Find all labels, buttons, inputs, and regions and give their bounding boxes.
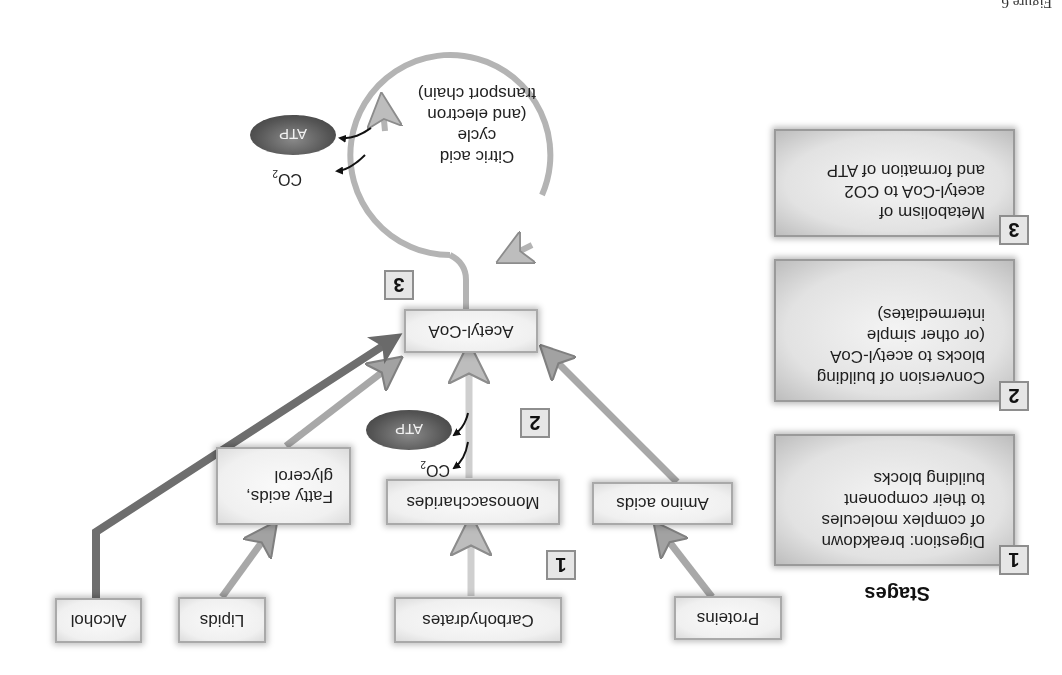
fatty-acids-box: Fatty acids, glycerol <box>216 447 351 525</box>
monosaccharides-label: Monosaccharides <box>406 492 539 512</box>
stage-1-badge: 1 <box>999 545 1029 575</box>
fatty-acids-label-line2: glycerol <box>274 466 333 486</box>
acetyl-coa-label: Acetyl-CoA <box>428 321 513 341</box>
stage-1-box: Digestion: breakdown of complex molecule… <box>774 434 1015 566</box>
stage-3-box: Metabolism of acetyl-CoA to CO2 and form… <box>774 129 1015 237</box>
stage-2-badge: 2 <box>999 381 1029 411</box>
fatty-acids-label-line1: Fatty acids, <box>246 486 333 506</box>
amino-acids-label: Amino acids <box>616 494 709 514</box>
acetyl-coa-box: Acetyl-CoA <box>404 309 538 353</box>
alcohol-label: Alcohol <box>71 611 127 631</box>
stage-marker-1: 1 <box>546 550 576 580</box>
stages-title: Stages <box>864 582 930 605</box>
alcohol-box: Alcohol <box>55 598 142 643</box>
co2-label-stage3: CO2 <box>272 168 302 188</box>
atp-ellipse-stage2: ATP <box>366 410 452 450</box>
proteins-label: Proteins <box>697 608 759 628</box>
stage-marker-2: 2 <box>520 408 550 438</box>
stage-marker-3: 3 <box>384 270 414 300</box>
atp-ellipse-stage3: ATP <box>250 115 336 155</box>
monosaccharides-box: Monosaccharides <box>386 479 560 525</box>
citric-acid-cycle-label: Citric acid cycle (and electron transpor… <box>407 83 547 167</box>
figure-caption-fragment: Figure 6 <box>1002 0 1052 11</box>
lipids-box: Lipids <box>178 597 266 643</box>
stage-3-badge: 3 <box>999 215 1029 245</box>
co2-label-stage2: CO2 <box>420 459 450 479</box>
proteins-box: Proteins <box>674 596 782 640</box>
lipids-label: Lipids <box>200 610 244 630</box>
carbohydrates-label: Carbohydrates <box>422 610 534 630</box>
metabolism-diagram: Proteins Carbohydrates Lipids Alcohol Am… <box>0 0 1062 675</box>
stage-2-box: Conversion of building blocks to acetyl-… <box>774 259 1015 402</box>
carbohydrates-box: Carbohydrates <box>394 597 562 643</box>
amino-acids-box: Amino acids <box>592 482 733 525</box>
